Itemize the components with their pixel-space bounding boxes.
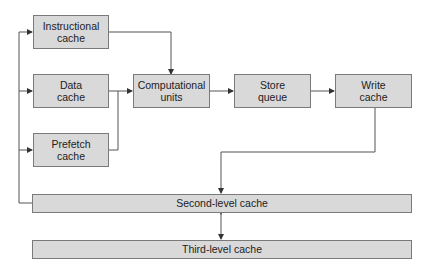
write-cache-label-1: Write [361, 79, 385, 91]
prefetch-cache-box: Prefetchcache [33, 133, 109, 167]
instructional-cache-label-2: cache [57, 32, 85, 44]
computational-units-box: Computationalunits [133, 74, 210, 108]
write-cache-label-2: cache [359, 91, 387, 103]
data-cache-box: Datacache [33, 74, 109, 108]
prefetch-cache-label-2: cache [57, 150, 85, 162]
write-cache-box: Writecache [335, 74, 412, 108]
third-level-cache-box: Third-level cache [32, 240, 412, 259]
computational-units-label-2: units [160, 91, 182, 103]
instructional-cache-label-1: Instructional [43, 20, 100, 32]
third-level-cache-label: Third-level cache [182, 243, 262, 256]
computational-units-label-1: Computational [138, 79, 206, 91]
second-level-cache-box: Second-level cache [32, 194, 412, 213]
data-cache-label-1: Data [60, 79, 82, 91]
prefetch-cache-label-1: Prefetch [51, 138, 90, 150]
store-queue-label-1: Store [260, 79, 285, 91]
store-queue-label-2: queue [258, 91, 287, 103]
store-queue-box: Storequeue [234, 74, 311, 108]
second-level-cache-label: Second-level cache [176, 197, 268, 210]
data-cache-label-2: cache [57, 91, 85, 103]
instructional-cache-box: Instructionalcache [33, 15, 109, 49]
